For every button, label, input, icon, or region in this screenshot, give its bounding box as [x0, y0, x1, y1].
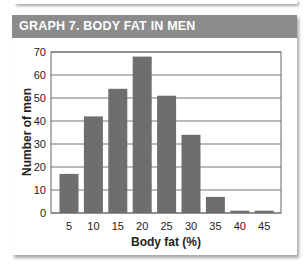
- y-tick-label: 0: [40, 207, 46, 219]
- x-tick-label: 25: [160, 220, 172, 232]
- bar-chart: 01020304050607051015202530354045Body fat…: [0, 0, 308, 270]
- bar: [206, 197, 225, 213]
- x-axis-label: Body fat (%): [131, 235, 201, 249]
- bar: [182, 135, 201, 213]
- x-tick-label: 40: [234, 220, 246, 232]
- x-tick-label: 15: [112, 220, 124, 232]
- x-tick-label: 10: [87, 220, 99, 232]
- x-tick-label: 45: [258, 220, 270, 232]
- y-tick-label: 60: [34, 69, 46, 81]
- x-tick-label: 30: [185, 220, 197, 232]
- bar: [133, 57, 152, 213]
- bar: [157, 96, 176, 213]
- y-tick-label: 40: [34, 115, 46, 127]
- y-tick-label: 10: [34, 184, 46, 196]
- x-tick-label: 35: [209, 220, 221, 232]
- y-tick-label: 50: [34, 92, 46, 104]
- y-tick-label: 20: [34, 161, 46, 173]
- x-tick-label: 20: [136, 220, 148, 232]
- bar: [230, 211, 249, 213]
- bar: [255, 211, 274, 213]
- y-axis-label: Number of men: [20, 88, 34, 176]
- bar: [84, 116, 103, 213]
- y-tick-label: 30: [34, 138, 46, 150]
- y-tick-label: 70: [34, 46, 46, 58]
- bar: [108, 89, 127, 213]
- bar: [60, 174, 79, 213]
- x-tick-label: 5: [66, 220, 72, 232]
